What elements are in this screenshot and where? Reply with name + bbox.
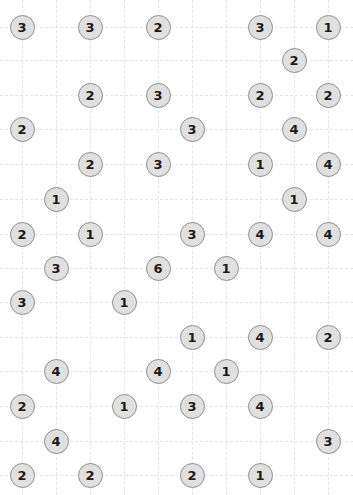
- data-point-label: 3: [255, 21, 264, 34]
- data-point-label: 1: [289, 193, 298, 206]
- data-point-node[interactable]: 4: [282, 117, 307, 142]
- data-point-node[interactable]: 4: [146, 359, 171, 384]
- data-point-label: 3: [17, 296, 26, 309]
- data-point-label: 2: [17, 400, 26, 413]
- data-point-node[interactable]: 2: [78, 83, 103, 108]
- data-point-label: 3: [85, 21, 94, 34]
- data-point-node[interactable]: 2: [10, 222, 35, 247]
- data-point-label: 2: [323, 89, 332, 102]
- data-point-node[interactable]: 3: [10, 15, 35, 40]
- data-point-label: 1: [187, 331, 196, 344]
- data-point-label: 2: [17, 228, 26, 241]
- data-point-label: 4: [289, 123, 298, 136]
- data-point-node[interactable]: 1: [282, 187, 307, 212]
- data-point-node[interactable]: 3: [146, 83, 171, 108]
- data-point-node[interactable]: 4: [248, 325, 273, 350]
- data-point-label: 2: [187, 469, 196, 482]
- data-point-label: 2: [85, 89, 94, 102]
- data-point-label: 2: [255, 89, 264, 102]
- data-point-node[interactable]: 3: [44, 256, 69, 281]
- data-point-label: 4: [255, 400, 264, 413]
- data-point-node[interactable]: 3: [180, 394, 205, 419]
- data-point-label: 1: [221, 262, 230, 275]
- data-point-node[interactable]: 2: [180, 463, 205, 488]
- data-point-node[interactable]: 3: [10, 290, 35, 315]
- data-point-node[interactable]: 3: [180, 222, 205, 247]
- data-point-label: 1: [51, 193, 60, 206]
- data-point-node[interactable]: 2: [282, 48, 307, 73]
- data-point-label: 4: [323, 228, 332, 241]
- data-point-label: 3: [187, 123, 196, 136]
- data-point-node[interactable]: 4: [316, 152, 341, 177]
- data-point-label: 4: [323, 158, 332, 171]
- data-point-label: 4: [153, 365, 162, 378]
- data-point-label: 2: [17, 123, 26, 136]
- data-point-node[interactable]: 3: [316, 429, 341, 454]
- data-point-label: 1: [85, 228, 94, 241]
- data-point-label: 1: [323, 21, 332, 34]
- data-point-node[interactable]: 2: [78, 463, 103, 488]
- data-point-label: 6: [153, 262, 162, 275]
- data-point-node[interactable]: 3: [180, 117, 205, 142]
- data-point-label: 3: [187, 400, 196, 413]
- data-point-label: 1: [255, 469, 264, 482]
- data-point-node[interactable]: 1: [248, 463, 273, 488]
- data-point-label: 3: [51, 262, 60, 275]
- data-point-label: 3: [17, 21, 26, 34]
- data-point-node[interactable]: 1: [316, 15, 341, 40]
- data-point-label: 1: [221, 365, 230, 378]
- data-point-layer: 3323122322234231411213443613114244121344…: [0, 0, 353, 495]
- data-point-node[interactable]: 2: [78, 152, 103, 177]
- data-point-node[interactable]: 2: [248, 83, 273, 108]
- data-point-label: 2: [153, 21, 162, 34]
- data-point-label: 4: [51, 365, 60, 378]
- data-point-label: 2: [323, 331, 332, 344]
- data-point-label: 3: [153, 158, 162, 171]
- data-point-node[interactable]: 1: [214, 359, 239, 384]
- data-point-node[interactable]: 1: [180, 325, 205, 350]
- data-point-label: 3: [323, 435, 332, 448]
- data-point-node[interactable]: 2: [10, 394, 35, 419]
- data-point-node[interactable]: 1: [44, 187, 69, 212]
- data-point-label: 2: [289, 54, 298, 67]
- data-point-node[interactable]: 2: [316, 83, 341, 108]
- data-point-node[interactable]: 2: [146, 15, 171, 40]
- data-point-label: 4: [255, 228, 264, 241]
- data-point-node[interactable]: 1: [248, 152, 273, 177]
- data-point-label: 2: [85, 158, 94, 171]
- data-point-node[interactable]: 4: [316, 222, 341, 247]
- data-point-node[interactable]: 1: [112, 394, 137, 419]
- data-point-node[interactable]: 1: [214, 256, 239, 281]
- data-point-node[interactable]: 4: [44, 359, 69, 384]
- data-point-node[interactable]: 2: [10, 463, 35, 488]
- data-point-label: 1: [119, 400, 128, 413]
- data-point-label: 2: [85, 469, 94, 482]
- data-point-node[interactable]: 4: [44, 429, 69, 454]
- data-point-label: 3: [153, 89, 162, 102]
- data-point-label: 3: [187, 228, 196, 241]
- data-point-node[interactable]: 3: [146, 152, 171, 177]
- data-point-node[interactable]: 1: [78, 222, 103, 247]
- data-point-label: 1: [255, 158, 264, 171]
- data-point-node[interactable]: 6: [146, 256, 171, 281]
- data-point-node[interactable]: 1: [112, 290, 137, 315]
- data-point-node[interactable]: 2: [316, 325, 341, 350]
- data-point-label: 4: [255, 331, 264, 344]
- scatter-plot-canvas: 3323122322234231411213443613114244121344…: [0, 0, 353, 495]
- data-point-node[interactable]: 4: [248, 394, 273, 419]
- data-point-node[interactable]: 4: [248, 222, 273, 247]
- data-point-label: 2: [17, 469, 26, 482]
- data-point-label: 1: [119, 296, 128, 309]
- data-point-label: 4: [51, 435, 60, 448]
- data-point-node[interactable]: 3: [78, 15, 103, 40]
- data-point-node[interactable]: 2: [10, 117, 35, 142]
- data-point-node[interactable]: 3: [248, 15, 273, 40]
